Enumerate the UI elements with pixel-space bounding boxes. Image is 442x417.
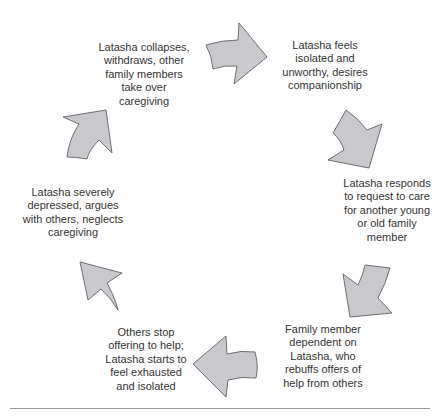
arrow-down-left-icon (343, 265, 392, 317)
node-others-stop-helping: Others stop offering to help; Latasha st… (96, 326, 196, 393)
arrow-right-icon (206, 23, 267, 84)
node-responds-to-request: Latasha responds to request to care for … (333, 177, 441, 244)
arrow-up-right-icon (63, 110, 112, 159)
cycle-diagram: Latasha feels isolated and unworthy, des… (0, 0, 442, 417)
node-family-member-dependent: Family member dependent on Latasha, who … (272, 323, 374, 390)
node-severely-depressed: Latasha severely depressed, argues with … (18, 186, 128, 240)
arrow-left-icon (193, 336, 257, 397)
node-isolated-unworthy: Latasha feels isolated and unworthy, des… (275, 39, 375, 93)
arrow-down-right-icon (328, 110, 382, 168)
arrow-up-left-icon (80, 262, 122, 310)
caption-divider (10, 408, 430, 409)
node-collapses-withdraws: Latasha collapses, withdraws, other fami… (92, 41, 196, 108)
